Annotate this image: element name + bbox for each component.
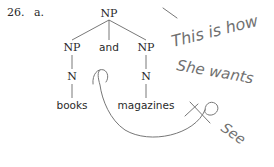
tree-diagram: This is how She wants See [0, 0, 274, 167]
svg-text:She wants: She wants [175, 56, 255, 87]
handwritten-text: This is how She wants See [169, 11, 261, 148]
tree-node-conjunction: and [99, 41, 119, 53]
tree-leaf-books: books [56, 99, 87, 111]
tree-node-n-left: N [67, 70, 77, 83]
tree-node-np-left: NP [63, 41, 80, 54]
tree-branches [72, 20, 146, 98]
svg-text:See: See [218, 119, 249, 147]
tree-node-n-right: N [141, 70, 151, 83]
tree-node-root: NP [100, 7, 117, 20]
tree-node-np-right: NP [137, 41, 154, 54]
tree-leaf-magazines: magazines [118, 99, 175, 111]
svg-text:This is how: This is how [169, 11, 261, 51]
